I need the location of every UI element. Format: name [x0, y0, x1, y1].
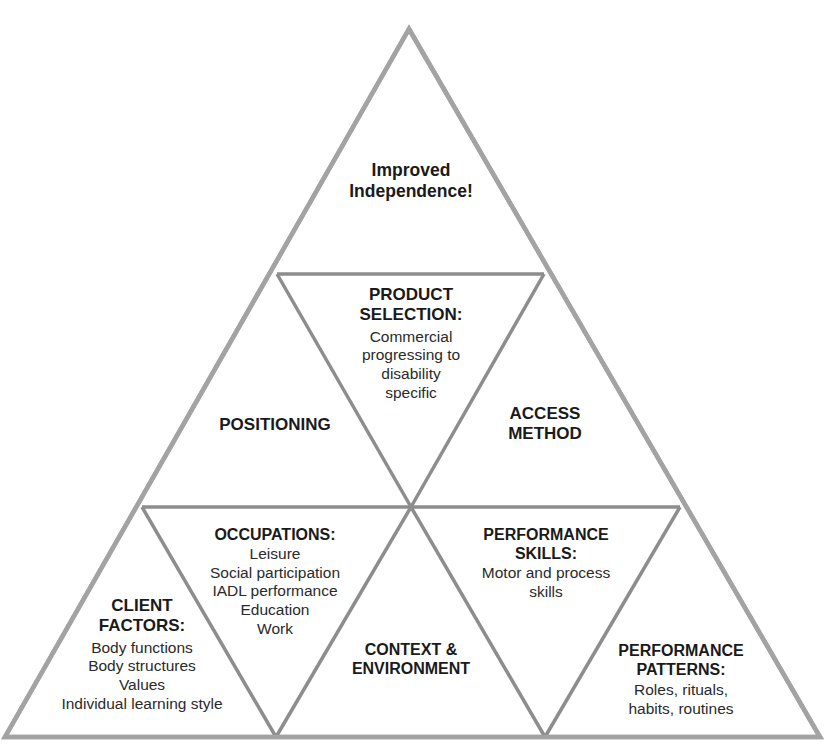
cell-body-line: Body functions — [61, 639, 222, 658]
cell-body-line: Motor and process — [482, 564, 610, 583]
cell-body-line: skills — [482, 583, 610, 602]
cell-body-line: Roles, rituals, — [618, 681, 743, 700]
cell-body-line: Education — [210, 601, 340, 620]
cell-body-line: Body structures — [61, 657, 222, 676]
cell-title: ENVIRONMENT — [352, 659, 470, 678]
cell-title: Independence! — [349, 181, 473, 202]
cell-performance-skills: PERFORMANCE SKILLS: Motor and process sk… — [482, 525, 610, 602]
cell-body-line: habits, routines — [618, 700, 743, 719]
cell-title: ACCESS — [508, 404, 582, 424]
cell-title: Improved — [349, 160, 473, 181]
cell-title: CONTEXT & — [352, 640, 470, 659]
cell-title: OCCUPATIONS: — [210, 525, 340, 544]
cell-body-line: progressing to — [360, 346, 463, 365]
cell-performance-patterns: PERFORMANCE PATTERNS: Roles, rituals, ha… — [618, 641, 743, 719]
cell-title: PRODUCT — [360, 285, 463, 305]
cell-body-line: Values — [61, 676, 222, 695]
cell-client-factors: CLIENT FACTORS: Body functions Body stru… — [61, 596, 222, 713]
cell-improved-independence: Improved Independence! — [349, 160, 473, 202]
cell-body-line: Individual learning style — [61, 695, 222, 714]
cell-body-line: IADL performance — [210, 582, 340, 601]
cell-title: PERFORMANCE — [618, 641, 743, 660]
cell-context-environment: CONTEXT & ENVIRONMENT — [352, 640, 470, 678]
cell-body-line: Leisure — [210, 545, 340, 564]
cell-body-line: Social participation — [210, 564, 340, 583]
cell-title: PERFORMANCE — [482, 525, 610, 544]
cell-body-line: specific — [360, 384, 463, 403]
cell-title: CLIENT — [61, 596, 222, 616]
cell-body-line: Commercial — [360, 328, 463, 347]
cell-title: METHOD — [508, 424, 582, 444]
cell-positioning: POSITIONING — [219, 415, 330, 435]
cell-title: SELECTION: — [360, 305, 463, 325]
cell-title: PATTERNS: — [618, 660, 743, 679]
cell-title: FACTORS: — [61, 616, 222, 636]
cell-body-line: Work — [210, 620, 340, 639]
cell-title: SKILLS: — [482, 544, 610, 563]
cell-product-selection: PRODUCT SELECTION: Commercial progressin… — [360, 285, 463, 402]
cell-occupations: OCCUPATIONS: Leisure Social participatio… — [210, 525, 340, 638]
cell-body-line: disability — [360, 365, 463, 384]
cell-access-method: ACCESS METHOD — [508, 404, 582, 445]
cell-title: POSITIONING — [219, 415, 330, 435]
